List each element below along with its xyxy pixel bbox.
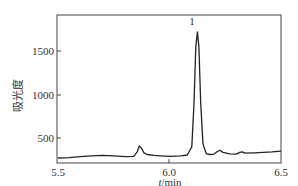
y-axis: 1500 1000 500 吸光度 <box>11 45 61 144</box>
peak-label-1: 1 <box>189 15 195 27</box>
chromatogram-chart: 1500 1000 500 吸光度 5.5 6.0 6.5 t/min 1 <box>0 0 298 186</box>
y-tick-label: 1500 <box>32 45 55 57</box>
chromatogram-trace <box>58 32 281 158</box>
y-axis-label: 吸光度 <box>11 79 24 112</box>
x-tick-label: 5.5 <box>51 166 65 178</box>
y-tick-label: 1000 <box>32 89 55 101</box>
x-tick-label: 6.5 <box>274 166 288 178</box>
plot-frame <box>57 15 281 163</box>
x-axis-label: t/min <box>158 176 182 186</box>
y-tick-label: 500 <box>38 132 55 144</box>
